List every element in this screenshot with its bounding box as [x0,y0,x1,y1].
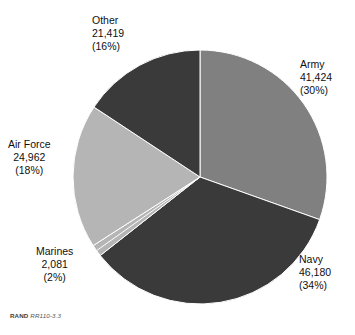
slice-label-army-percent: (30%) [300,84,332,97]
slice-label-navy-name: Navy [299,253,331,266]
slice-label-air-force-value: 24,962 [8,151,51,164]
slice-label-air-force-name: Air Force [8,138,51,151]
slice-label-marines-percent: (2%) [36,271,73,284]
source-note-organization: RAND [10,312,28,319]
slice-label-marines-name: Marines [36,245,73,258]
slice-label-other-percent: (16%) [92,40,124,53]
slice-label-other-value: 21,419 [92,27,124,40]
source-note-identifier: RR110-3.3 [30,312,61,319]
slice-label-army-name: Army [300,58,332,71]
slice-label-army-value: 41,424 [300,71,332,84]
slice-label-other: Other 21,419 (16%) [92,14,124,54]
slice-label-air-force-percent: (18%) [8,164,51,177]
slice-label-army: Army 41,424 (30%) [300,58,332,98]
slice-label-air-force: Air Force 24,962 (18%) [8,138,51,178]
slice-label-marines-value: 2,081 [36,258,73,271]
slice-label-other-name: Other [92,14,124,27]
source-note: RAND RR110-3.3 [10,312,61,319]
slice-label-navy: Navy 46,180 (34%) [299,253,331,293]
slice-label-marines: Marines 2,081 (2%) [36,245,73,285]
pie-chart-figure: Other 21,419 (16%) Army 41,424 (30%) Nav… [0,0,355,335]
slice-label-navy-value: 46,180 [299,266,331,279]
slice-label-navy-percent: (34%) [299,279,331,292]
